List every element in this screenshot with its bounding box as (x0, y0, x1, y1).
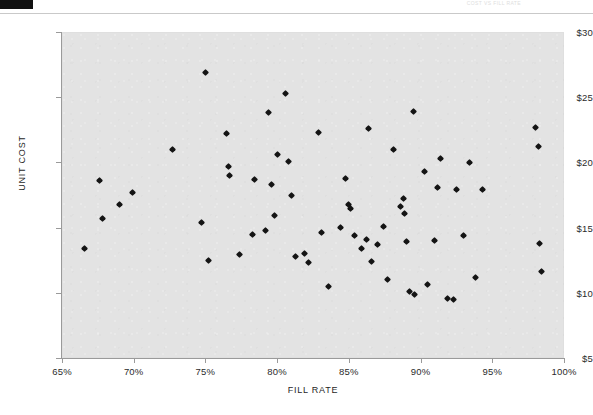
x-axis-tick-label: 90% (411, 366, 431, 377)
data-point (410, 108, 417, 115)
data-point (532, 124, 539, 131)
data-point (96, 177, 103, 184)
x-axis-tick-label: 100% (551, 366, 576, 377)
data-point (315, 129, 322, 136)
data-point (384, 276, 391, 283)
data-point (538, 268, 545, 275)
data-point (479, 186, 486, 193)
data-point (453, 186, 460, 193)
data-point (363, 236, 370, 243)
y-axis-tick-label: $15 (541, 222, 593, 233)
data-point (129, 189, 136, 196)
y-axis-title: UNIT COST (17, 108, 27, 218)
y-axis-tick-label: $25 (541, 92, 593, 103)
x-axis-tick (564, 358, 565, 363)
data-point (337, 224, 344, 231)
data-point (397, 203, 404, 210)
y-axis-tick (56, 293, 62, 294)
data-point (325, 283, 332, 290)
data-point (434, 184, 441, 191)
data-point (301, 250, 308, 257)
data-point (368, 258, 375, 265)
y-axis-tick-label: $5 (541, 353, 593, 364)
data-point (365, 125, 372, 132)
data-point (411, 291, 418, 298)
data-point (198, 219, 205, 226)
data-point (226, 172, 233, 179)
y-axis-tick-label: $20 (541, 157, 593, 168)
x-axis-tick (349, 358, 350, 363)
data-point (81, 245, 88, 252)
data-point (265, 109, 272, 116)
data-point (431, 237, 438, 244)
data-point (223, 130, 230, 137)
y-axis-tick (56, 228, 62, 229)
data-point (351, 232, 358, 239)
x-axis-line (61, 358, 565, 359)
y-axis-tick-label: $10 (541, 287, 593, 298)
data-point (374, 241, 381, 248)
data-point (437, 155, 444, 162)
data-point (249, 231, 256, 238)
data-point (401, 210, 408, 217)
data-point (536, 240, 543, 247)
data-point (274, 151, 281, 158)
x-axis-tick (277, 358, 278, 363)
y-axis-line (61, 32, 62, 359)
data-point (251, 176, 258, 183)
data-point (288, 191, 295, 198)
data-point (460, 232, 467, 239)
data-point (271, 212, 278, 219)
data-point (116, 201, 123, 208)
y-axis-tick-label: $30 (541, 27, 593, 38)
data-point (262, 227, 269, 234)
x-axis-tick-label: 95% (482, 366, 502, 377)
x-axis-tick-label: 70% (124, 366, 144, 377)
data-point (205, 257, 212, 264)
data-point (421, 168, 428, 175)
data-point (292, 253, 299, 260)
scatter-chart: $30$25$20$15$10$5 65%70%75%80%85%90%95%1… (0, 0, 593, 415)
x-axis-tick-label: 85% (339, 366, 359, 377)
data-point (99, 215, 106, 222)
x-axis-tick (421, 358, 422, 363)
data-point (305, 259, 312, 266)
data-point (535, 143, 542, 150)
data-point (466, 159, 473, 166)
x-axis-tick (205, 358, 206, 363)
data-point (169, 146, 176, 153)
data-point (390, 146, 397, 153)
y-axis-tick (56, 32, 62, 33)
x-axis-tick-label: 65% (52, 366, 72, 377)
x-axis-tick (492, 358, 493, 363)
data-point (450, 296, 457, 303)
data-point (403, 238, 410, 245)
data-point (268, 181, 275, 188)
data-point (318, 229, 325, 236)
data-point (424, 281, 431, 288)
x-axis-title: FILL RATE (62, 385, 564, 395)
plot-area (62, 32, 564, 358)
data-point (282, 90, 289, 97)
data-point (358, 245, 365, 252)
data-point (285, 158, 292, 165)
x-axis-tick-label: 75% (196, 366, 216, 377)
data-point (225, 163, 232, 170)
data-point (400, 195, 407, 202)
plot-paper-texture (62, 32, 564, 358)
x-axis-tick-label: 80% (267, 366, 287, 377)
y-axis-tick (56, 162, 62, 163)
data-point (202, 69, 209, 76)
x-axis-tick (62, 358, 63, 363)
data-point (380, 223, 387, 230)
data-point (236, 251, 243, 258)
data-point (342, 175, 349, 182)
data-point (472, 274, 479, 281)
x-axis-tick (134, 358, 135, 363)
y-axis-tick (56, 97, 62, 98)
